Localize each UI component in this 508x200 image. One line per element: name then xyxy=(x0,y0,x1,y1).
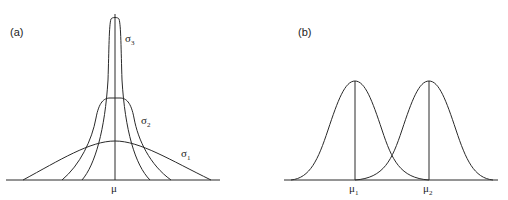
sigma3-label: σ3 xyxy=(125,32,134,47)
panel-b-label: (b) xyxy=(298,26,311,38)
curve-mean2 xyxy=(355,81,493,180)
mu-label: μ xyxy=(111,182,117,194)
sigma2-subscript: 2 xyxy=(147,121,151,129)
sigma3-subscript: 3 xyxy=(131,39,135,47)
sigma1-subscript: 1 xyxy=(187,154,191,162)
panel-a-label: (a) xyxy=(10,26,23,38)
curve-mean1 xyxy=(291,81,429,180)
curve-sigma3 xyxy=(82,18,150,181)
diagram-canvas xyxy=(0,0,508,200)
curve-sigma2 xyxy=(62,98,171,180)
mu1-subscript: 1 xyxy=(355,189,359,197)
mu1-label: μ1 xyxy=(349,182,358,197)
sigma2-label: σ2 xyxy=(141,114,150,129)
sigma1-label: σ1 xyxy=(181,147,190,162)
mu2-subscript: 2 xyxy=(429,189,433,197)
mu2-label: μ2 xyxy=(423,182,432,197)
